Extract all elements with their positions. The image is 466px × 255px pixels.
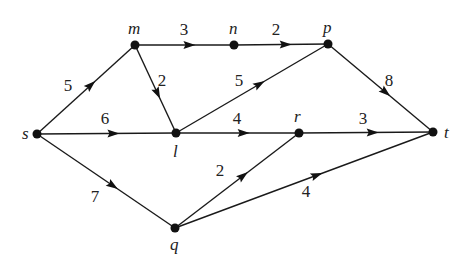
node-label-p: p	[322, 18, 332, 37]
edge-s-m	[37, 45, 135, 134]
edge-weight-p-t: 8	[385, 71, 394, 90]
node-m	[131, 41, 140, 50]
edge-weight-n-p: 2	[272, 20, 281, 39]
edge-q-t	[175, 132, 433, 228]
edge-weight-l-p: 5	[235, 71, 244, 90]
edge-l-p	[176, 44, 328, 133]
node-q	[171, 224, 180, 233]
edge-weight-m-l: 2	[158, 71, 167, 90]
node-label-m: m	[128, 19, 140, 38]
edge-weight-q-t: 4	[302, 182, 311, 201]
arrowhead-icon	[252, 78, 266, 91]
node-label-t: t	[444, 123, 450, 142]
edge-weight-s-m: 5	[64, 76, 73, 95]
edge-weight-m-n: 3	[180, 20, 189, 39]
graph-svg: 567322548324smnplrtq	[0, 0, 466, 255]
edge-weight-s-q: 7	[91, 187, 100, 206]
node-label-q: q	[170, 235, 179, 254]
node-label-r: r	[294, 107, 301, 126]
edge-p-t	[328, 44, 433, 132]
arrowhead-icon	[310, 169, 324, 181]
node-t	[429, 128, 438, 137]
arrowhead-icon	[106, 179, 120, 192]
node-label-n: n	[229, 19, 238, 38]
edge-s-l	[37, 133, 176, 134]
edge-s-q	[37, 134, 175, 228]
node-s	[33, 130, 42, 139]
node-label-s: s	[22, 124, 29, 143]
edge-weight-l-r: 4	[233, 109, 242, 128]
node-l	[172, 129, 181, 138]
edge-weight-s-l: 6	[101, 109, 110, 128]
edge-weight-q-r: 2	[216, 161, 225, 180]
edge-m-l	[135, 45, 176, 133]
edge-r-t	[299, 132, 433, 133]
labels-group: 567322548324smnplrtq	[22, 18, 450, 254]
node-p	[324, 40, 333, 49]
node-label-l: l	[173, 142, 178, 161]
node-n	[230, 41, 239, 50]
arrowhead-icon	[236, 169, 250, 183]
edge-weight-r-t: 3	[359, 109, 368, 128]
edge-q-r	[175, 133, 299, 228]
edge-n-p	[234, 44, 328, 45]
graph-diagram: 567322548324smnplrtq	[0, 0, 466, 255]
node-r	[295, 129, 304, 138]
